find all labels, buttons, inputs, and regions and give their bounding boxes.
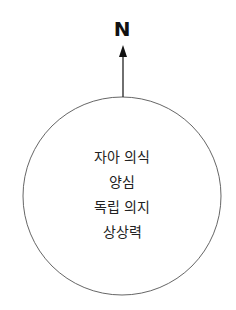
line-conscience: 양심: [22, 170, 222, 195]
north-label: N: [106, 17, 138, 41]
line-imagination: 상상력: [22, 220, 222, 245]
circle-text: 자아 의식 양심 독립 의지 상상력: [22, 145, 222, 245]
arrow-head-icon: [119, 45, 127, 57]
line-self-awareness: 자아 의식: [22, 145, 222, 170]
line-independent-will: 독립 의지: [22, 195, 222, 220]
